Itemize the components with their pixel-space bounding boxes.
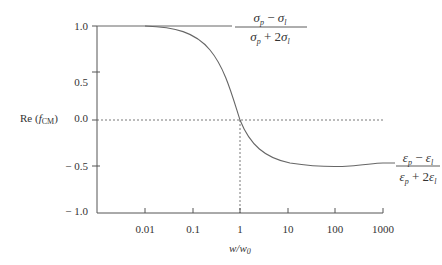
svg-text:εp + 2εl: εp + 2εl — [400, 169, 438, 186]
y-tick-label: − 1.0 — [65, 205, 88, 217]
y-tick-label: 0.0 — [74, 112, 88, 124]
svg-text:σp + 2σl: σp + 2σl — [250, 29, 290, 46]
permittivity-ratio-annotation: εp − εl εp + 2εl — [396, 150, 440, 186]
x-tick-label: 0.1 — [186, 223, 200, 235]
cm-factor-curve — [145, 26, 383, 166]
cm-factor-chart: 1.0 0.5 0.0 − 0.5 − 1.0 Re (fCM) 0.01 0.… — [0, 0, 442, 265]
y-axis-label: Re (fCM) — [20, 112, 58, 126]
x-tick-label: 1000 — [372, 223, 395, 235]
x-tick-label: 0.01 — [135, 223, 154, 235]
x-tick-label: 10 — [283, 223, 295, 235]
conductivity-ratio-annotation: σp − σl σp + 2σl — [235, 10, 307, 46]
y-tick-label: 1.0 — [74, 20, 88, 32]
x-tick-label: 100 — [327, 223, 344, 235]
y-tick-label: 0.5 — [74, 76, 88, 88]
x-tick-label: 1 — [237, 223, 243, 235]
y-ticks — [92, 26, 100, 166]
svg-text:σp − σl: σp − σl — [254, 10, 288, 27]
svg-text:εp − εl: εp − εl — [403, 150, 434, 167]
x-axis-label: w/w0 — [229, 242, 251, 256]
y-tick-label: − 0.5 — [65, 160, 88, 172]
x-ticks — [145, 208, 383, 213]
